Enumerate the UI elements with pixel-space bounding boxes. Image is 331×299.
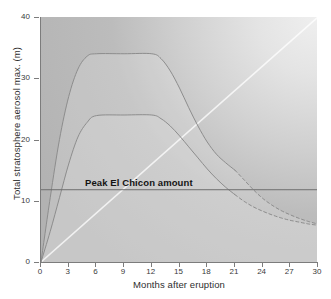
x-tick-label: 24 xyxy=(252,267,272,276)
x-tick-label: 9 xyxy=(113,267,133,276)
x-tick-label: 30 xyxy=(307,267,327,276)
x-axis-title: Months after eruption xyxy=(40,279,318,290)
y-tick-label: 0 xyxy=(0,258,30,266)
y-axis-title: Total stratosphere aerosol max. (m) xyxy=(11,24,22,224)
x-tick-label: 0 xyxy=(30,267,50,276)
y-tick xyxy=(34,201,39,202)
x-tick-label: 27 xyxy=(279,267,299,276)
x-tick-label: 3 xyxy=(58,267,78,276)
x-tick-label: 18 xyxy=(196,267,216,276)
chart-figure: 010203040036912151821242730 Peak El Chic… xyxy=(0,0,331,299)
x-tick-label: 12 xyxy=(141,267,161,276)
peak-el-chicon-label: Peak El Chicon amount xyxy=(85,177,193,188)
y-tick xyxy=(34,140,39,141)
y-tick xyxy=(34,17,39,18)
lower-band-fill xyxy=(41,115,317,262)
y-tick xyxy=(34,262,39,263)
plot-area xyxy=(40,17,317,262)
curves-layer xyxy=(41,17,317,262)
x-tick-label: 6 xyxy=(85,267,105,276)
x-tick-label: 15 xyxy=(169,267,189,276)
x-tick-label: 21 xyxy=(224,267,244,276)
y-axis-line xyxy=(40,17,41,263)
y-tick-label: 40 xyxy=(0,13,30,21)
y-tick xyxy=(34,78,39,79)
